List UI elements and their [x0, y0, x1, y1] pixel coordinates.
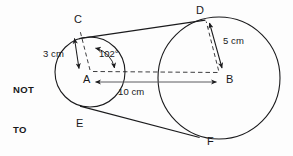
geometry-figure: NOT TO SCALE C D A B E F 3 cm 5 cm 10 cm… [0, 0, 293, 156]
not-to-scale-line-2: TO [13, 123, 47, 136]
dimension-label-5cm: 5 cm [223, 36, 244, 46]
center-line-dashed [93, 72, 219, 73]
lower-tangent-line [80, 106, 200, 137]
not-to-scale-line-1: NOT [13, 83, 47, 96]
angle-label-102: 102° [99, 49, 119, 59]
point-label-D: D [196, 5, 204, 17]
point-label-B: B [226, 74, 234, 86]
point-label-E: E [76, 118, 84, 130]
dimension-arrow-5cm [210, 23, 223, 68]
dimension-label-10cm: 10 cm [118, 87, 144, 97]
dimension-arrow-3cm [75, 39, 80, 69]
point-label-F: F [207, 136, 214, 148]
point-label-A: A [83, 74, 91, 86]
not-to-scale-note: NOT TO SCALE [13, 57, 47, 156]
upper-tangent-line [79, 20, 205, 39]
large-circle [158, 17, 280, 139]
point-label-C: C [74, 14, 82, 26]
dimension-label-3cm: 3 cm [43, 49, 64, 59]
radius-line-BD-dashed [206, 22, 218, 71]
